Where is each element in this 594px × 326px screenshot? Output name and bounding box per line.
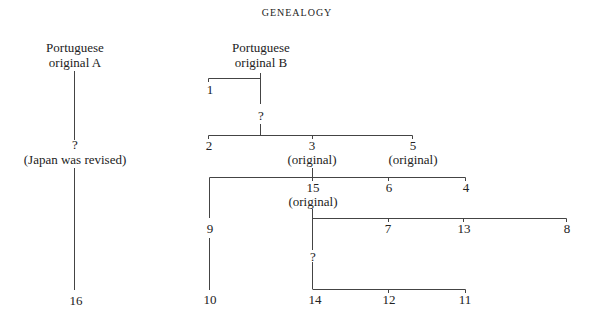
- node-10: 10: [204, 292, 217, 307]
- node-2: 2: [206, 138, 213, 153]
- node-5: 5: [410, 138, 417, 153]
- node-3: 3: [309, 138, 316, 153]
- node-label-line2: original B: [232, 55, 290, 70]
- node-4: 4: [463, 180, 470, 195]
- node-label-line1: Portuguese: [232, 40, 290, 55]
- node-13: 13: [458, 221, 471, 236]
- node-portuguese-original-b: Portuguese original B: [232, 40, 290, 70]
- node-3-note: (original): [287, 152, 336, 167]
- node-1: 1: [207, 82, 214, 97]
- node-portuguese-original-a: Portuguese original A: [46, 40, 104, 70]
- node-15: 15: [307, 180, 320, 195]
- node-16: 16: [70, 293, 83, 308]
- node-6: 6: [386, 180, 393, 195]
- node-unknown-15: ?: [310, 249, 316, 264]
- node-11: 11: [459, 292, 472, 307]
- node-15-note: (original): [288, 194, 337, 209]
- node-unknown-b: ?: [258, 108, 264, 123]
- node-label-line2: original A: [46, 55, 104, 70]
- node-label-line1: Portuguese: [46, 40, 104, 55]
- node-unknown-a: ?: [72, 137, 78, 152]
- node-8: 8: [564, 221, 571, 236]
- node-14: 14: [309, 292, 322, 307]
- node-japan-revised: (Japan was revised): [24, 152, 127, 167]
- node-5-note: (original): [388, 152, 437, 167]
- node-12: 12: [383, 292, 396, 307]
- node-9: 9: [207, 221, 214, 236]
- node-7: 7: [385, 221, 392, 236]
